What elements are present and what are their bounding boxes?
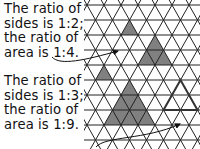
small-triangle-unit <box>121 20 138 35</box>
arrow-bottom-caption <box>96 124 180 147</box>
caption-line: area is 1:4. <box>4 46 84 61</box>
caption-line: The ratio of <box>4 2 84 17</box>
large-triangle-triple <box>104 80 155 125</box>
caption-line: the ratio of <box>4 31 84 46</box>
caption-line: sides is 1:2; <box>4 17 84 32</box>
caption-line: the ratio of <box>4 103 84 118</box>
caption-ratio-1-2: The ratio of sides is 1:2; the ratio of … <box>4 2 84 60</box>
small-triangle-unit-lower <box>96 65 113 80</box>
caption-line: The ratio of <box>4 74 84 89</box>
grid-line <box>152 0 200 149</box>
caption-ratio-1-3: The ratio of sides is 1:3; the ratio of … <box>4 74 84 132</box>
caption-line: area is 1:9. <box>4 118 84 133</box>
caption-line: sides is 1:3; <box>4 89 84 104</box>
